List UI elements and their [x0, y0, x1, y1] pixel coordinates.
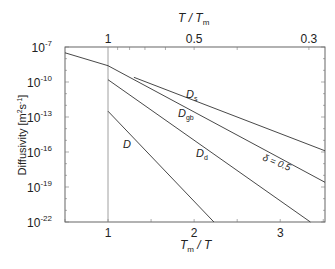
series-lines	[65, 53, 325, 222]
series-line-ds	[134, 77, 325, 151]
x-axis-ticks	[65, 47, 323, 222]
y-axis-ticks	[65, 47, 325, 222]
series-label-ds: Ds	[186, 88, 198, 102]
series-line-dgb	[108, 66, 325, 183]
series-line-d	[108, 111, 214, 222]
x-tick-label: 1	[105, 226, 112, 240]
top-tick-label: 0.5	[186, 32, 203, 46]
series-label-d: D	[123, 138, 131, 150]
y-tick-label: 10-19	[27, 179, 52, 195]
y-tick-label: 10-7	[32, 39, 53, 55]
plot-frame	[65, 47, 325, 222]
y-tick-label: 10-13	[27, 109, 52, 125]
y-tick-label: 10-16	[27, 144, 52, 160]
y-tick-label: 10-22	[27, 214, 52, 230]
series-line-dd	[108, 80, 310, 222]
series-label-dgb: Dgb	[178, 107, 194, 122]
top-tick-label: 1	[105, 32, 112, 46]
y-axis-title: Diffusivity [m2s-1]	[16, 95, 28, 176]
x-axis-title: Tm / T	[180, 238, 213, 254]
diffusivity-chart: 10-710-1010-1310-1610-1910-22 123 10.50.…	[0, 0, 335, 269]
top-tick-labels: 10.50.3	[105, 32, 318, 46]
y-tick-labels: 10-710-1010-1310-1610-1910-22	[27, 39, 52, 230]
y-tick-label: 10-10	[27, 74, 52, 90]
delta-annotation: δ = 0.5	[261, 152, 293, 173]
top-axis-title: T / Tm	[178, 11, 210, 27]
x-tick-label: 3	[277, 226, 284, 240]
top-tick-label: 0.3	[301, 32, 318, 46]
series-line-liquid	[65, 53, 108, 66]
